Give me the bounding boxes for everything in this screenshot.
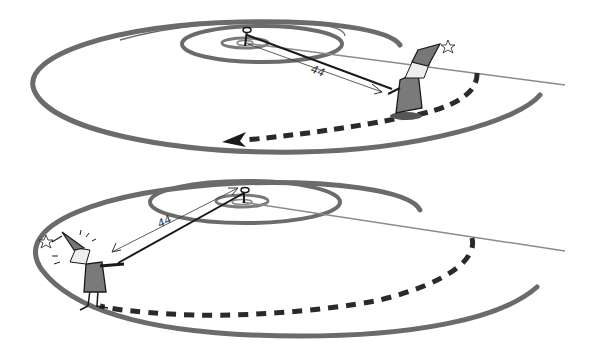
top-wizard-figure	[388, 40, 455, 120]
top-distance-label: 44	[309, 63, 327, 80]
bottom-panel: 44	[36, 181, 565, 336]
bottom-wizard-figure	[39, 230, 124, 310]
top-dashed-path	[245, 73, 477, 140]
bottom-measuring-string	[118, 193, 244, 263]
spiral-diagram: 44 44	[0, 0, 596, 351]
top-direction-arrow-icon	[222, 132, 246, 147]
top-outer-spiral	[33, 22, 540, 152]
top-middle-ring	[182, 26, 342, 62]
top-panel: 44	[33, 22, 565, 152]
bottom-dashed-path	[100, 238, 473, 315]
top-star-wand-icon	[441, 40, 455, 53]
bottom-radial-line	[242, 202, 565, 251]
bottom-outer-spiral	[36, 182, 537, 336]
